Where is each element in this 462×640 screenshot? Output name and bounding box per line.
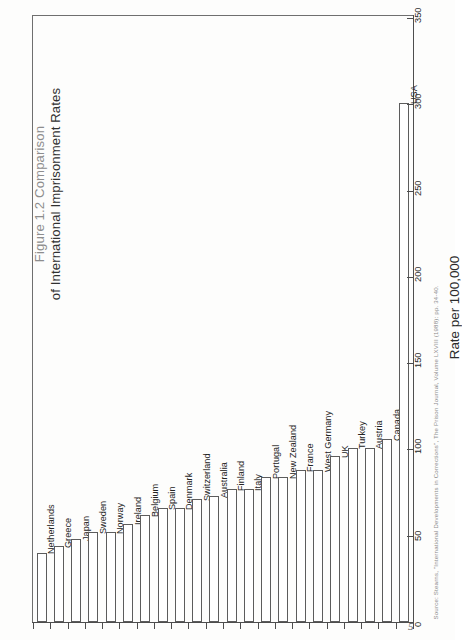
value-tick-label: 150 <box>413 353 423 369</box>
bar-portugal <box>261 477 271 622</box>
bar-norway <box>106 532 116 622</box>
bar-label: Finland <box>236 460 246 490</box>
bar-sweden <box>88 532 98 622</box>
category-tick <box>240 622 241 629</box>
bar-label: Spain <box>167 486 177 510</box>
bar-greece <box>54 546 64 622</box>
bar-denmark <box>175 508 185 622</box>
bar-west-germany <box>313 470 323 622</box>
category-tick <box>188 622 189 629</box>
category-tick <box>223 622 224 629</box>
value-tick-label: 100 <box>413 439 423 455</box>
bar-uk <box>330 456 340 622</box>
bar-label: Portugal <box>271 444 281 478</box>
category-tick <box>292 622 293 629</box>
source-note: Source: Stearns, "International Developm… <box>432 298 439 620</box>
value-tick-label: 300 <box>413 94 423 110</box>
category-tick <box>275 622 276 629</box>
value-tick-label: 50 <box>413 530 423 540</box>
bar-belgium <box>140 515 150 622</box>
bar-austria <box>365 448 375 622</box>
page-number: 5 <box>408 620 414 632</box>
category-tick <box>344 622 345 629</box>
bar-australia <box>209 496 219 622</box>
category-tick <box>102 622 103 629</box>
bar-label: Sweden <box>98 501 108 534</box>
bar-japan <box>71 539 81 622</box>
bar-label: Turkey <box>357 421 367 449</box>
category-tick <box>50 622 51 629</box>
category-tick <box>85 622 86 629</box>
category-tick <box>171 622 172 629</box>
bar-turkey <box>348 448 358 622</box>
bar-finland <box>227 489 237 622</box>
bar-label: Switzerland <box>202 453 212 501</box>
category-tick <box>137 622 138 629</box>
category-tick <box>361 622 362 629</box>
category-tick <box>378 622 379 629</box>
category-tick <box>206 622 207 629</box>
category-tick <box>154 622 155 629</box>
value-tick-label: 200 <box>413 266 423 282</box>
bar-france <box>296 470 306 622</box>
bar-spain <box>158 508 168 622</box>
value-tick-label: 0 <box>413 622 423 627</box>
bar-ireland <box>123 524 133 622</box>
value-tick-label: 250 <box>413 180 423 196</box>
bar-canada <box>382 439 392 622</box>
category-tick <box>327 622 328 629</box>
bar-new-zealand <box>278 477 288 622</box>
bar-switzerland <box>192 499 202 622</box>
bar-italy <box>244 489 254 622</box>
value-tick-label: 350 <box>413 7 423 23</box>
category-tick <box>309 622 310 629</box>
bar-netherlands <box>37 553 47 622</box>
category-tick <box>396 622 397 629</box>
category-tick <box>119 622 120 629</box>
category-tick <box>258 622 259 629</box>
value-axis-title: Rate per 100,000 <box>447 228 462 388</box>
bar-label: France <box>305 443 315 472</box>
category-tick <box>68 622 69 629</box>
category-tick <box>33 622 34 629</box>
